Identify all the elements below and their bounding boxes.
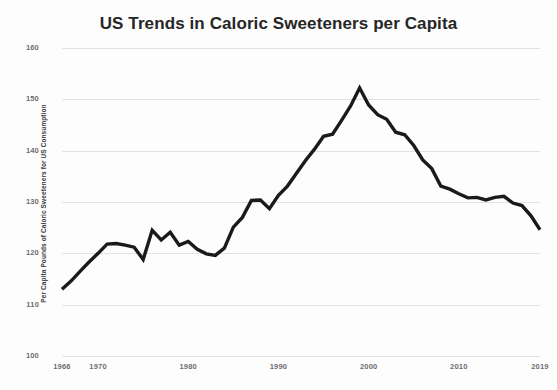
chart-container: US Trends in Caloric Sweeteners per Capi… xyxy=(0,0,557,390)
x-axis-tick-label: 1980 xyxy=(158,362,218,371)
x-axis-tick-label: 2010 xyxy=(429,362,489,371)
gridline xyxy=(62,356,540,357)
y-axis-tick-label: 150 xyxy=(0,94,39,103)
y-axis-tick-label: 100 xyxy=(0,351,39,360)
x-axis-tick-label: 1990 xyxy=(248,362,308,371)
y-axis-tick-label: 110 xyxy=(0,300,39,309)
x-axis-tick-label: 2019 xyxy=(510,362,557,371)
x-axis-tick-label: 2000 xyxy=(339,362,399,371)
series-polyline xyxy=(62,88,540,289)
chart-title: US Trends in Caloric Sweeteners per Capi… xyxy=(0,14,557,34)
y-axis-tick-label: 160 xyxy=(0,43,39,52)
x-axis-tick-label: 1970 xyxy=(68,362,128,371)
y-axis-tick-label: 140 xyxy=(0,146,39,155)
y-axis-title: Per Capita Pounds of Caloric Sweeteners … xyxy=(40,84,47,324)
y-axis-tick-label: 130 xyxy=(0,197,39,206)
data-series-line xyxy=(62,48,540,356)
plot-area: 100110120130140150160 196619701980199020… xyxy=(62,48,540,356)
y-axis-tick-label: 120 xyxy=(0,248,39,257)
